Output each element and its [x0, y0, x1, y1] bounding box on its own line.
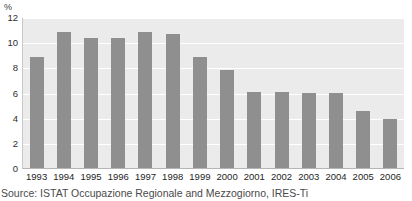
x-axis-tick-label: 1996: [105, 171, 132, 183]
bar: [30, 57, 44, 169]
y-axis-tick-label: 8: [13, 63, 18, 73]
bar: [356, 111, 370, 169]
bars-layer: [23, 18, 404, 169]
bar: [57, 32, 71, 169]
bar: [247, 92, 261, 169]
x-axis-tick-labels: 1993199419951996199719981999200020012002…: [23, 171, 404, 185]
x-axis-tick-label: 1994: [50, 171, 77, 183]
bar: [111, 38, 125, 169]
x-axis-tick-label: 1993: [23, 171, 50, 183]
bar: [193, 57, 207, 169]
y-axis-tick-label: 6: [13, 89, 18, 99]
bar: [166, 34, 180, 169]
x-axis-tick-label: 2000: [214, 171, 241, 183]
y-axis-line: [22, 18, 23, 169]
bar: [329, 93, 343, 169]
x-axis-tick-label: 2006: [377, 171, 404, 183]
x-axis-tick-label: 1997: [132, 171, 159, 183]
y-axis-tick-label: 10: [7, 38, 18, 48]
bar-chart-figure: % 024681012 1993199419951996199719981999…: [0, 0, 412, 201]
x-axis-tick-label: 2001: [241, 171, 268, 183]
x-axis-tick-label: 2005: [350, 171, 377, 183]
x-axis-tick-label: 2002: [268, 171, 295, 183]
x-axis-tick-label: 1995: [77, 171, 104, 183]
y-axis-tick-label: 0: [13, 164, 18, 174]
x-axis-line: [23, 168, 404, 169]
y-axis-tick-label: 4: [13, 114, 18, 124]
y-axis-tick-label: 12: [7, 13, 18, 23]
x-axis-tick-label: 1999: [186, 171, 213, 183]
x-axis-tick-label: 1998: [159, 171, 186, 183]
plot-area: [23, 18, 404, 169]
source-caption: Source: ISTAT Occupazione Regionale and …: [1, 187, 411, 200]
bar: [302, 93, 316, 169]
x-axis-tick-label: 2003: [295, 171, 322, 183]
bar: [138, 32, 152, 169]
bar: [275, 92, 289, 169]
bar: [220, 70, 234, 169]
y-axis-tick-label: 2: [13, 139, 18, 149]
y-axis-tick-labels: 024681012: [0, 0, 22, 201]
bar: [383, 119, 397, 169]
x-axis-tick-label: 2004: [322, 171, 349, 183]
bar: [84, 38, 98, 169]
